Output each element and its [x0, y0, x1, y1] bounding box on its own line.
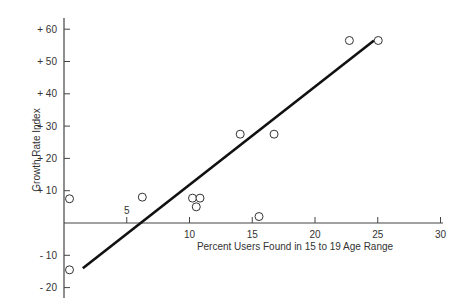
data-point-marker — [236, 130, 244, 138]
data-point-marker — [374, 37, 382, 45]
data-point-marker — [66, 195, 74, 203]
x-tick-label: 5 — [124, 205, 130, 216]
y-axis-title: Growth Rate Index — [31, 108, 42, 191]
x-tick-label: 20 — [309, 229, 321, 240]
data-point-marker — [255, 213, 263, 221]
data-point-marker — [138, 193, 146, 201]
x-tick-label: 15 — [247, 229, 259, 240]
regression-line — [83, 41, 374, 269]
scatter-chart: 51015202530+ 60+ 50+ 40+ 30+ 20+ 10- 10-… — [0, 0, 470, 308]
data-point-marker — [270, 130, 278, 138]
data-point-marker — [189, 194, 197, 202]
x-tick-label: 30 — [435, 229, 447, 240]
axes — [64, 18, 443, 298]
y-tick-label: - 20 — [40, 282, 58, 293]
data-point-marker — [345, 37, 353, 45]
x-tick-label: 25 — [372, 229, 384, 240]
data-point-marker — [192, 203, 200, 211]
y-tick-label: + 50 — [37, 56, 57, 67]
x-tick-label: 10 — [184, 229, 196, 240]
tick-labels: 51015202530+ 60+ 50+ 40+ 30+ 20+ 10- 10-… — [37, 24, 446, 293]
y-tick-label: + 40 — [37, 88, 57, 99]
y-tick-label: - 10 — [40, 250, 58, 261]
x-axis-title: Percent Users Found in 15 to 19 Age Rang… — [197, 241, 394, 252]
data-point-marker — [66, 266, 74, 274]
y-tick-label: + 60 — [37, 24, 57, 35]
data-point-marker — [196, 194, 204, 202]
